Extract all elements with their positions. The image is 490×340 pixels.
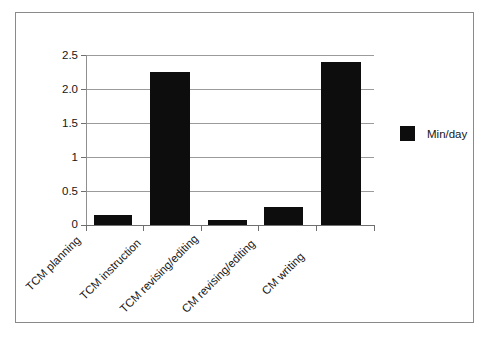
x-axis-tick-mark — [86, 225, 87, 231]
bar-cm-writing[interactable] — [321, 62, 361, 225]
chart-frame: 2.5 2.0 1.5 1 0.5 0 TCM planning TCM ins… — [15, 12, 474, 323]
legend: Min/day — [400, 126, 467, 141]
y-axis-tick-label: 0.5 — [36, 185, 78, 197]
bar-tcm-instruction[interactable] — [150, 72, 190, 225]
y-axis-tick-label: 0 — [36, 218, 78, 230]
plot-area — [86, 55, 374, 225]
x-axis-category-label-tcm-planning: TCM planning — [24, 234, 83, 293]
x-axis-tick-mark — [201, 225, 202, 231]
y-axis-tick-label: 1 — [36, 151, 78, 163]
x-axis-category-label-cm-writing: CM writing — [260, 250, 307, 297]
y-axis-line — [86, 55, 87, 226]
x-axis-line — [86, 225, 375, 226]
y-axis-tick-label: 1.5 — [36, 117, 78, 129]
y-axis-tick-label: 2.0 — [36, 83, 78, 95]
x-axis-tick-mark — [374, 225, 375, 231]
bar-tcm-planning[interactable] — [94, 215, 132, 225]
x-axis-tick-mark — [258, 225, 259, 231]
series-color-swatch — [400, 126, 415, 141]
y-axis-tick-label: 2.5 — [36, 49, 78, 61]
x-axis-tick-mark — [143, 225, 144, 231]
bar-cm-revising-editing[interactable] — [264, 207, 303, 225]
legend-label: Min/day — [427, 128, 467, 140]
x-axis-tick-mark — [316, 225, 317, 231]
gridline-2.5 — [86, 55, 374, 56]
